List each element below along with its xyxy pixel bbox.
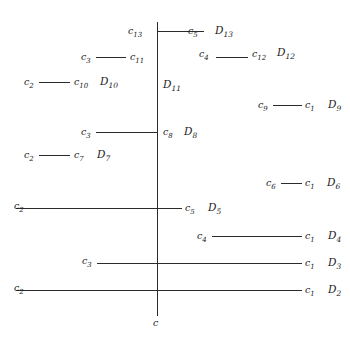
label-D6: D6 — [327, 176, 340, 191]
label-c4-d12: c4 — [199, 48, 209, 62]
label-c1-d3: c1 — [305, 257, 315, 271]
label-D9: D9 — [328, 98, 341, 113]
label-D2: D2 — [328, 283, 341, 298]
label-c6: c6 — [266, 177, 276, 191]
label-D10: D10 — [100, 75, 118, 90]
segment-d12-right — [216, 57, 248, 58]
label-c1-d2: c1 — [305, 284, 315, 298]
label-c2-d5: c2 — [14, 200, 24, 214]
label-c1-d9: c1 — [305, 99, 315, 113]
label-D8: D8 — [184, 125, 197, 140]
label-D3: D3 — [328, 256, 341, 271]
segment-d4 — [212, 236, 302, 237]
label-D5: D5 — [208, 201, 221, 216]
label-c7: c7 — [74, 149, 84, 163]
segment-d7 — [39, 155, 70, 156]
label-c13: c13 — [128, 25, 142, 39]
label-c9: c9 — [258, 99, 268, 113]
label-c11: c11 — [130, 51, 144, 65]
label-c5-d5: c5 — [185, 202, 195, 216]
label-D7: D7 — [97, 148, 110, 163]
segment-d2 — [16, 290, 302, 291]
label-c10: c10 — [74, 76, 88, 90]
label-c12: c12 — [252, 48, 266, 62]
label-c2-d2: c2 — [14, 282, 24, 296]
segment-d9 — [273, 105, 302, 106]
label-c2-d10: c2 — [24, 76, 34, 90]
label-D11: D11 — [163, 78, 181, 93]
segment-d5 — [16, 208, 182, 209]
label-c3-d3: c3 — [82, 255, 92, 269]
segment-d6 — [281, 183, 302, 184]
label-c1-d4: c1 — [305, 230, 315, 244]
label-c4-d4: c4 — [197, 230, 207, 244]
label-D13: D13 — [215, 24, 233, 39]
label-c5-d13: c5 — [188, 25, 198, 39]
label-D4: D4 — [328, 229, 341, 244]
axis-label-c: c — [153, 317, 158, 328]
label-c2-d7: c2 — [24, 149, 34, 163]
label-c3-d8: c3 — [81, 126, 91, 140]
segment-d10 — [39, 82, 70, 83]
segment-d12-left — [96, 57, 126, 58]
diagram-canvas: c c13 c5 D13 c3 c11 c4 c12 D12 D11 c2 c1… — [0, 0, 350, 340]
label-D12: D12 — [277, 46, 295, 61]
label-c1-d6: c1 — [305, 177, 315, 191]
label-c3-d12: c3 — [81, 51, 91, 65]
segment-d3 — [97, 263, 302, 264]
vertical-axis — [157, 22, 158, 316]
segment-d8 — [96, 132, 158, 133]
label-c8: c8 — [163, 126, 173, 140]
